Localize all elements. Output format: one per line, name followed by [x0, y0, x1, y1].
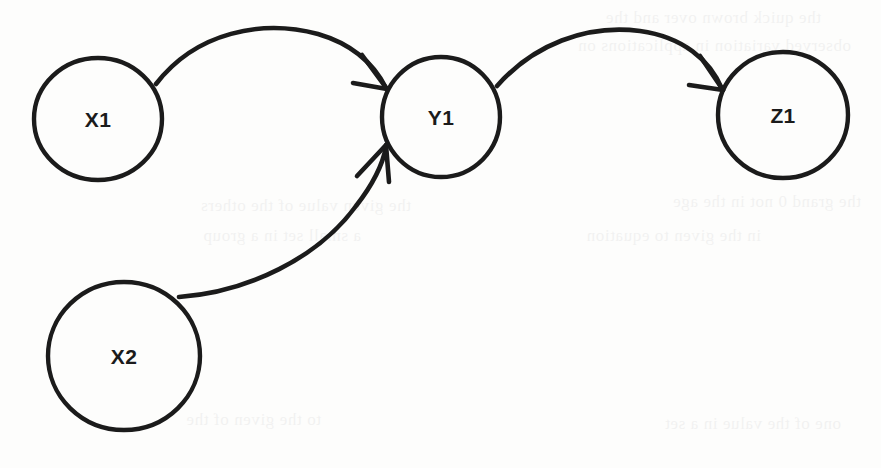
node-y1[interactable]: Y1 [382, 57, 500, 177]
edge-curve [179, 147, 386, 297]
edge-y1-to-z1[interactable] [497, 30, 723, 90]
directed-graph-canvas: X1Y1Z1X2 [0, 0, 881, 468]
edge-x2-to-y1[interactable] [179, 145, 389, 297]
edge-curve [497, 30, 722, 89]
arrowhead-icon [689, 56, 723, 90]
node-label: Z1 [770, 104, 795, 127]
diagram-page: the quick brown over and theobserved var… [0, 0, 881, 468]
node-x2[interactable]: X2 [48, 282, 200, 430]
node-x1[interactable]: X1 [34, 58, 162, 180]
node-label: X2 [111, 345, 137, 368]
arrow-barb [386, 145, 389, 182]
edge-x1-to-y1[interactable] [156, 28, 387, 89]
node-label: X1 [85, 108, 111, 131]
node-z1[interactable]: Z1 [718, 52, 848, 178]
edge-curve [156, 28, 386, 88]
arrowhead-icon [353, 55, 387, 89]
nodes-group: X1Y1Z1X2 [34, 52, 848, 430]
edges-group [156, 28, 723, 297]
node-label: Y1 [428, 106, 454, 129]
